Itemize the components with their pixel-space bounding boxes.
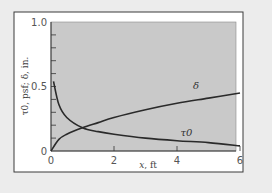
plot-area [51, 22, 236, 151]
x-axis-title: x, ft [139, 160, 157, 170]
y-tick-label: 0 [41, 146, 47, 157]
y-axis-title: τ0, psf; δ, in. [20, 57, 30, 116]
chart: 00.51.00246x, ftτ0, psf; δ, in.δτ0 [0, 0, 272, 193]
curve-label-delta: δ [193, 80, 199, 91]
x-tick-label: 0 [48, 155, 54, 166]
y-tick-label: 0.5 [31, 81, 47, 92]
x-tick-label: 2 [111, 155, 117, 166]
x-tick-label: 4 [174, 155, 180, 166]
y-tick-label: 1.0 [31, 17, 47, 28]
x-tick-label: 6 [237, 155, 243, 166]
curve-label-tau0: τ0 [180, 127, 193, 138]
